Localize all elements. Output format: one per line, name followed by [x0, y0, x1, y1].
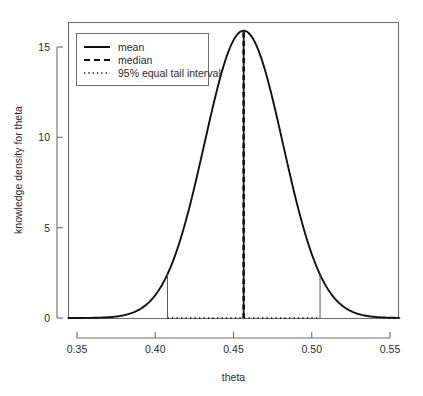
- legend-label-median: median: [118, 54, 153, 66]
- y-tick-label-2: 10: [38, 131, 50, 143]
- x-tick-label-0: 0.35: [67, 343, 88, 355]
- x-axis-title: theta: [222, 371, 246, 383]
- x-tick-label-3: 0.50: [302, 343, 323, 355]
- legend-label-mean: mean: [118, 41, 144, 53]
- y-tick-label-3: 15: [38, 41, 50, 53]
- x-tick-label-2: 0.45: [223, 343, 244, 355]
- figure-background: [0, 0, 423, 396]
- legend: mean median 95% equal tail interval: [77, 34, 221, 86]
- y-tick-label-1: 5: [44, 222, 50, 234]
- density-plot-figure: 0.35 0.40 0.45 0.50 0.55 theta 0 5 10 15…: [0, 0, 423, 396]
- x-tick-label-4: 0.55: [380, 343, 401, 355]
- legend-label-interval: 95% equal tail interval: [118, 67, 221, 79]
- y-tick-label-0: 0: [44, 312, 50, 324]
- x-tick-label-1: 0.40: [145, 343, 166, 355]
- y-axis-title: knowledge density for theta: [12, 106, 24, 234]
- plot-svg: 0.35 0.40 0.45 0.50 0.55 theta 0 5 10 15…: [0, 0, 423, 396]
